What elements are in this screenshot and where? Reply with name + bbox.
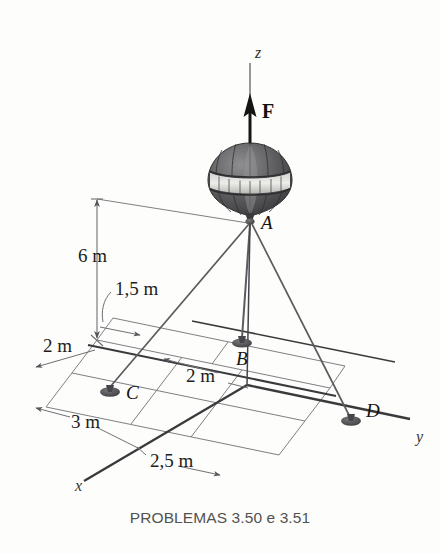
dimension-2m-center-label: 2 m bbox=[186, 365, 215, 386]
ground-ridge-line-2 bbox=[192, 321, 395, 362]
dimension-1_5m: 1,5 m bbox=[100, 278, 159, 335]
dimension-2_5m: 2,5 m bbox=[137, 447, 220, 475]
axis-z-label: z bbox=[254, 44, 262, 61]
force-vector-F: F bbox=[244, 93, 275, 148]
dimension-3m-line bbox=[36, 408, 70, 417]
dimension-2m-left-label: 2 m bbox=[43, 335, 72, 356]
grid-line-x0c bbox=[212, 342, 228, 364]
figure-container: z x y F bbox=[0, 0, 440, 554]
balloon bbox=[208, 143, 292, 225]
dimension-2m-left: 2 m bbox=[36, 335, 103, 367]
balloon-knot bbox=[245, 219, 254, 225]
figure-caption: PROBLEMAS 3.50 e 3.51 bbox=[0, 509, 440, 527]
axis-x: x bbox=[74, 385, 247, 494]
axis-z: z bbox=[250, 44, 262, 100]
anchor-D bbox=[341, 414, 361, 426]
force-label: F bbox=[262, 100, 274, 122]
dimension-2_5m-label: 2,5 m bbox=[150, 450, 194, 471]
dimension-3m: 3 m bbox=[36, 408, 140, 449]
point-label-B: B bbox=[236, 348, 248, 369]
axis-y-label: y bbox=[414, 428, 424, 446]
dimension-6m: 6 m bbox=[78, 199, 248, 338]
dimension-1_5m-line bbox=[100, 327, 140, 335]
axis-x-label: x bbox=[74, 477, 82, 494]
dimension-6m-label: 6 m bbox=[78, 245, 107, 266]
ground-grid bbox=[46, 340, 330, 455]
point-label-D: D bbox=[365, 400, 380, 421]
statics-diagram: z x y F bbox=[0, 0, 440, 554]
grid-line-x0b bbox=[330, 366, 345, 388]
point-label-C: C bbox=[126, 382, 139, 403]
dimension-3m-leader bbox=[96, 427, 140, 449]
point-label-A: A bbox=[259, 212, 273, 233]
dimension-1_5m-leader bbox=[102, 292, 111, 322]
anchor-C bbox=[100, 385, 120, 397]
axis-y: y bbox=[247, 385, 424, 446]
dimension-1_5m-label: 1,5 m bbox=[115, 278, 159, 299]
ground-grid-upper bbox=[97, 318, 345, 388]
anchor-B bbox=[232, 336, 252, 348]
dimension-3m-label: 3 m bbox=[71, 411, 100, 432]
